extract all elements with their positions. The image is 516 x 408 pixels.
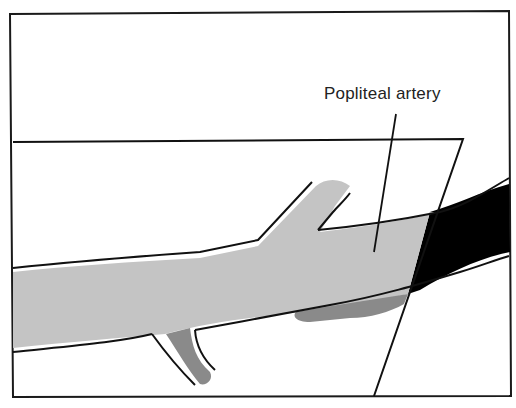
popliteal-artery-label: Popliteal artery xyxy=(324,84,441,104)
main-artery xyxy=(13,180,440,348)
popliteal-artery-diagram xyxy=(0,0,516,408)
dark-vessel xyxy=(408,184,510,294)
